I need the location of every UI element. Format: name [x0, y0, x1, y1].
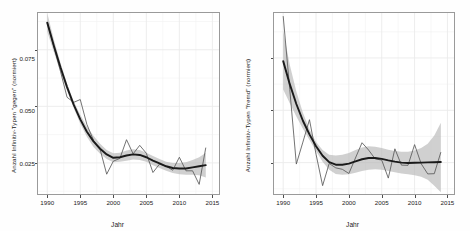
x-tick-label: 1995	[73, 199, 87, 206]
y-tick-label: 0.050	[20, 107, 35, 114]
plot-svg-right	[274, 13, 454, 194]
x-tick-mark	[382, 195, 383, 198]
y-axis-label-left: Anzahl Infinitiv-Typen "gegen" (normiert…	[6, 0, 20, 231]
x-tick-label: 2005	[375, 199, 389, 206]
x-tick-mark	[212, 195, 213, 198]
x-tick-mark	[146, 195, 147, 198]
x-tick-label: 1990	[40, 199, 54, 206]
figure-two-panel-line-charts: Anzahl Infinitiv-Typen "gegen" (normiert…	[0, 0, 470, 231]
x-tick-label: 2010	[172, 199, 186, 206]
plot-area-right	[273, 12, 455, 195]
x-tick-label: 1995	[309, 199, 323, 206]
x-tick-mark	[179, 195, 180, 198]
x-tick-mark	[447, 195, 448, 198]
x-tick-label: 2010	[408, 199, 422, 206]
x-tick-label: 2015	[441, 199, 455, 206]
plot-svg-left	[38, 13, 219, 194]
y-tick-label: 0.075	[20, 54, 35, 61]
x-tick-mark	[349, 195, 350, 198]
x-tick-label: 1990	[276, 199, 290, 206]
y-tick-label: 0.025	[20, 159, 35, 166]
x-tick-mark	[113, 195, 114, 198]
x-tick-label: 2015	[206, 199, 220, 206]
y-axis-label-right: Anzahl Infinitiv-Typen "fremd" (normiert…	[240, 0, 254, 231]
x-tick-mark	[47, 195, 48, 198]
x-tick-label: 2000	[106, 199, 120, 206]
x-tick-label: 2000	[342, 199, 356, 206]
x-tick-mark	[283, 195, 284, 198]
x-tick-mark	[415, 195, 416, 198]
x-tick-mark	[80, 195, 81, 198]
chart-panel-left-gegen: Anzahl Infinitiv-Typen "gegen" (normiert…	[0, 0, 235, 231]
x-tick-mark	[316, 195, 317, 198]
x-axis-label-left: Jahr	[0, 221, 235, 228]
chart-panel-right-fremd: Anzahl Infinitiv-Typen "fremd" (normiert…	[235, 0, 470, 231]
plot-area-left	[37, 12, 220, 195]
x-tick-label: 2005	[139, 199, 153, 206]
x-axis-label-right: Jahr	[235, 221, 470, 228]
